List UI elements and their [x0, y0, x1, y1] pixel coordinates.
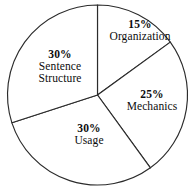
slice-percent-sentence-structure: 30% — [16, 48, 104, 60]
slice-label-sentence-structure: 30% Sentence Structure — [16, 48, 104, 85]
slice-category-mechanics: Mechanics — [110, 100, 194, 112]
slice-category-organization: Organization — [92, 30, 188, 42]
slice-percent-organization: 15% — [92, 18, 188, 30]
slice-percent-usage: 30% — [50, 122, 128, 134]
slice-label-mechanics: 25% Mechanics — [110, 88, 194, 112]
slice-category-sentence-structure-line1: Sentence — [16, 60, 104, 72]
slice-category-sentence-structure-line2: Structure — [16, 72, 104, 84]
slice-label-usage: 30% Usage — [50, 122, 128, 146]
slice-label-organization: 15% Organization — [92, 18, 188, 42]
slice-category-usage: Usage — [50, 134, 128, 146]
slice-percent-mechanics: 25% — [110, 88, 194, 100]
pie-chart-figure: 15% Organization 25% Mechanics 30% Usage… — [0, 0, 196, 194]
